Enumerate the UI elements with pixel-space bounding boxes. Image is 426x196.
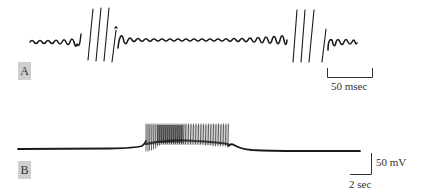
panel-b-time-scale-text: 2 sec: [349, 178, 371, 190]
traces-canvas: [0, 0, 426, 196]
panel-a-label: A: [18, 62, 31, 80]
panel-b-scale-bar: [350, 153, 372, 175]
panel-b-voltage-scale-text: 50 mV: [376, 156, 406, 168]
electrophysiology-figure: A B 50 msec 50 mV 2 sec: [0, 0, 426, 196]
panel-b-trace: [18, 124, 360, 151]
panel-a-time-scale-text: 50 msec: [331, 80, 367, 92]
panel-a-trace: [30, 8, 357, 62]
panel-b-label: B: [18, 161, 31, 179]
panel-a-scale-bar: [328, 68, 373, 78]
